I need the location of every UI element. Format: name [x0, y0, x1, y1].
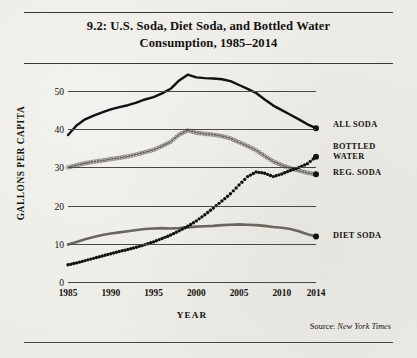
series-endpoint-diet-soda [313, 234, 319, 240]
series-marker [243, 178, 246, 181]
series-marker [75, 261, 78, 264]
series-marker [254, 170, 257, 173]
series-marker [237, 183, 240, 186]
series-marker [86, 258, 89, 261]
series-marker [81, 260, 84, 263]
series-line-all-soda [68, 75, 316, 135]
bottom-rule [24, 342, 393, 343]
series-marker [98, 255, 101, 258]
series-marker [220, 199, 223, 202]
top-rule [24, 12, 393, 13]
source-name: New York Times [337, 322, 391, 331]
series-marker [72, 262, 75, 265]
series-marker [257, 171, 260, 174]
chart-series-layer [68, 72, 316, 282]
series-marker [186, 225, 189, 228]
series-marker [209, 209, 212, 212]
legend-bottled-water-line1: BOTTLED [333, 142, 376, 151]
series-marker [200, 215, 203, 218]
series-marker [83, 259, 86, 262]
series-endpoint-reg-soda [313, 171, 319, 177]
source-prefix: Source: [310, 322, 336, 331]
series-marker [229, 192, 232, 195]
legend-label-bottled-water: BOTTLED WATER [333, 142, 376, 162]
gridline-20 [68, 206, 316, 207]
title-underrule [24, 63, 393, 64]
series-marker [195, 219, 198, 222]
x-axis-title: YEAR [68, 310, 316, 320]
series-marker [232, 189, 235, 192]
y-tick-label-40: 40 [24, 124, 64, 135]
x-tick-label-1985: 1985 [48, 288, 88, 298]
series-marker [223, 197, 226, 200]
series-marker [118, 250, 121, 253]
series-marker [78, 260, 81, 263]
figure-page: 9.2: U.S. Soda, Diet Soda, and Bottled W… [0, 0, 417, 358]
series-marker [115, 251, 118, 254]
series-marker [217, 202, 220, 205]
series-marker [69, 262, 72, 265]
gridline-30 [68, 167, 316, 168]
series-marker [306, 162, 309, 165]
y-tick-label-0: 0 [24, 277, 64, 288]
series-marker [112, 251, 115, 254]
series-marker [92, 257, 95, 260]
series-marker [203, 213, 206, 216]
series-marker [123, 248, 126, 251]
series-marker [89, 257, 92, 260]
series-marker [103, 254, 106, 257]
chart-plot-area: 010203040501985199019952000200520102014 [68, 72, 316, 282]
series-marker [192, 221, 195, 224]
legend-label-all-soda: ALL SODA [333, 120, 378, 130]
x-tick-label-2000: 2000 [176, 288, 216, 298]
source-note: Source: New York Times [310, 322, 391, 331]
series-marker [106, 253, 109, 256]
gridline-40 [68, 129, 316, 130]
title-line-2: Consumption, 1985–2014 [140, 36, 278, 50]
page-title: 9.2: U.S. Soda, Diet Soda, and Bottled W… [40, 18, 377, 53]
series-marker [189, 223, 192, 226]
y-tick-label-50: 50 [24, 86, 64, 97]
title-line-1: 9.2: U.S. Soda, Diet Soda, and Bottled W… [87, 19, 330, 33]
gridline-10 [68, 244, 316, 245]
x-tick-label-2014: 2014 [296, 288, 336, 298]
x-tick-label-1995: 1995 [134, 288, 174, 298]
series-marker [109, 252, 112, 255]
legend-bottled-water-line2: WATER [333, 152, 365, 161]
series-marker [66, 263, 69, 266]
series-marker [234, 186, 237, 189]
series-marker [120, 249, 123, 252]
series-marker [126, 248, 129, 251]
series-marker [212, 206, 215, 209]
x-tick-label-2005: 2005 [219, 288, 259, 298]
series-marker [309, 160, 312, 163]
series-endpoint-bottled-water [313, 154, 319, 160]
x-tick-label-1990: 1990 [91, 288, 131, 298]
y-tick-label-20: 20 [24, 200, 64, 211]
series-line-diet-soda [68, 224, 316, 244]
y-tick-label-10: 10 [24, 238, 64, 249]
series-marker [129, 247, 132, 250]
series-marker [95, 256, 98, 259]
series-marker [132, 246, 135, 249]
gridline-0 [68, 282, 316, 283]
series-marker [226, 195, 229, 198]
legend-label-diet-soda: DIET SODA [333, 231, 381, 241]
legend-label-reg-soda: REG. SODA [333, 168, 381, 178]
series-marker [240, 181, 243, 184]
series-marker [260, 171, 263, 174]
gridline-50 [68, 91, 316, 92]
series-marker [197, 217, 200, 220]
y-tick-label-30: 30 [24, 162, 64, 173]
series-marker [206, 211, 209, 214]
series-marker [101, 254, 104, 257]
